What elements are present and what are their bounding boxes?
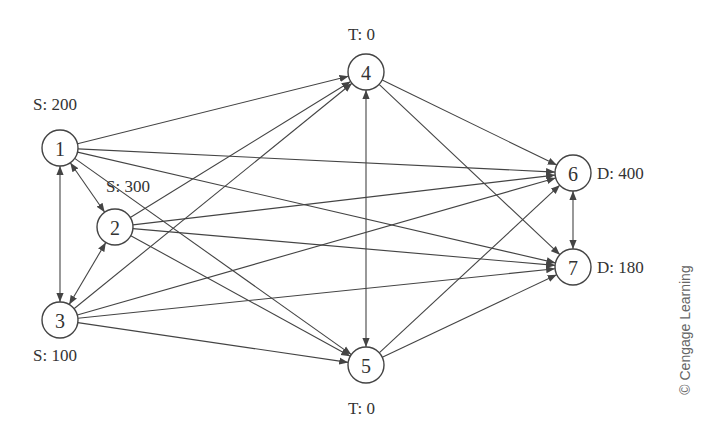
edge-2-7: [133, 229, 555, 266]
node-3: 3: [42, 302, 78, 338]
edge-2-3: [69, 243, 106, 305]
node-label: 2: [110, 217, 120, 239]
edge-2-5: [131, 236, 350, 357]
node-label: 6: [568, 163, 578, 185]
node-5: 5: [348, 347, 384, 383]
node-4: 4: [348, 54, 384, 90]
edge-3-7: [78, 269, 555, 318]
edge-2-4: [130, 82, 350, 218]
edge-4-6: [382, 80, 557, 165]
node-2-supply-annotation: S: 300: [106, 177, 150, 196]
edge-4-7: [379, 84, 560, 254]
node-1-supply-annotation: S: 200: [33, 95, 77, 114]
network-diagram: 1234567 S: 200S: 300S: 100T: 0T: 0D: 400…: [0, 0, 707, 445]
node-3-supply-annotation: S: 100: [33, 346, 77, 365]
edge-1-2: [70, 163, 104, 212]
nodes-layer: 1234567: [42, 54, 591, 383]
node-4-transshipment-annotation: T: 0: [348, 25, 375, 44]
node-label: 5: [361, 355, 371, 377]
edge-3-5: [78, 323, 348, 363]
node-7-demand-annotation: D: 180: [597, 258, 644, 277]
edge-5-7: [382, 275, 556, 358]
node-1: 1: [42, 130, 78, 166]
edges-layer: [60, 76, 573, 362]
node-5-transshipment-annotation: T: 0: [348, 399, 375, 418]
node-label: 4: [361, 62, 371, 84]
node-7: 7: [555, 249, 591, 285]
edge-5-6: [379, 185, 560, 353]
node-label: 1: [55, 138, 65, 160]
node-label: 7: [568, 257, 578, 279]
edge-3-4: [74, 83, 352, 308]
node-6: 6: [555, 155, 591, 191]
copyright-credit: © Cengage Learning: [677, 265, 693, 394]
node-2: 2: [97, 209, 133, 245]
edge-1-4: [78, 76, 349, 143]
node-6-demand-annotation: D: 400: [597, 164, 644, 183]
node-label: 3: [55, 310, 65, 332]
edge-2-6: [133, 175, 555, 225]
